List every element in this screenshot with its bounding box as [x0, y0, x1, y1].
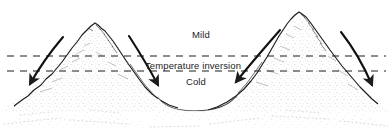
label-mild: Mild	[192, 29, 210, 40]
label-temperature-inversion: Temperature inversion	[145, 60, 241, 71]
label-cold: Cold	[186, 76, 206, 87]
temperature-inversion-diagram: Mild Temperature inversion Cold	[0, 0, 392, 131]
